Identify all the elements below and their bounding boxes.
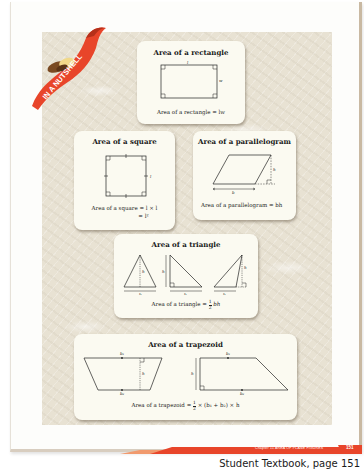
card-rectangle: Area of a rectangle l w Area of a rectan… — [137, 41, 245, 124]
svg-text:w: w — [219, 78, 223, 83]
card-formula: Area of a rectangle = lw — [137, 109, 245, 115]
svg-text:b₂: b₂ — [240, 391, 245, 396]
card-title: Area of a triangle — [114, 240, 258, 249]
card-formula: Area of a trapezoid = 1 2 × (b₁ + b₂) × … — [74, 401, 297, 411]
card-title: Area of a square — [74, 137, 175, 146]
svg-text:h: h — [162, 269, 165, 274]
formula-suffix: × (b₁ + b₂) × h — [198, 402, 240, 408]
svg-text:h: h — [142, 371, 145, 376]
triangle-diagrams: h b h b h b — [118, 251, 258, 295]
fraction-denominator: 2 — [209, 306, 212, 311]
footer-page-number: 151 — [346, 445, 354, 450]
card-title: Area of a trapezoid — [74, 340, 297, 349]
page-caption: Student Textbook, page 151 — [219, 458, 360, 469]
svg-text:b₁: b₁ — [120, 351, 125, 356]
ribbon-label: IN A NUTSHELL — [41, 52, 84, 101]
svg-text:l: l — [150, 174, 152, 179]
parallelogram-diagram: b h — [201, 149, 293, 199]
svg-text:h: h — [273, 167, 276, 172]
svg-text:h: h — [244, 265, 247, 270]
card-formula: Area of a parallelogram = bh — [193, 202, 296, 208]
svg-text:b₁: b₁ — [226, 351, 231, 356]
card-formula-line2: = l² — [74, 213, 175, 219]
svg-text:b: b — [232, 190, 235, 195]
svg-text:l: l — [187, 61, 189, 65]
footer-band — [120, 444, 362, 454]
formula-suffix: bh — [213, 301, 220, 307]
footer-chapter-title: Chapter 11 AREA OF PLANE FIGURES — [255, 446, 323, 450]
in-a-nutshell-ribbon: IN A NUTSHELL — [24, 20, 114, 110]
rectangle-diagram: l w — [159, 61, 225, 103]
svg-text:b: b — [139, 292, 142, 295]
card-trapezoid: Area of a trapezoid b₁ b₂ h b₁ b₂ h Area… — [74, 334, 297, 420]
svg-text:b: b — [184, 292, 187, 295]
card-square: Area of a square l Area of a square = l … — [74, 131, 175, 230]
svg-text:b: b — [223, 292, 226, 295]
card-formula-line1: Area of a square = l × l — [74, 205, 175, 211]
card-title: Area of a parallelogram — [193, 137, 296, 146]
square-diagram: l — [96, 151, 156, 201]
svg-text:h: h — [142, 269, 145, 274]
card-formula: Area of a triangle = 1 2 bh — [114, 300, 258, 310]
card-title: Area of a rectangle — [137, 48, 245, 57]
card-triangle: Area of a triangle h b h b h b Area of a… — [114, 234, 258, 318]
formula-prefix: Area of a trapezoid = — [132, 402, 192, 408]
card-parallelogram: Area of a parallelogram b h Area of a pa… — [193, 131, 296, 220]
formula-prefix: Area of a triangle = — [152, 301, 207, 307]
fraction-denominator: 2 — [193, 407, 196, 412]
trapezoid-diagrams: b₁ b₂ h b₁ b₂ h — [80, 350, 292, 396]
svg-text:h: h — [191, 371, 194, 376]
svg-text:b₂: b₂ — [120, 391, 125, 396]
